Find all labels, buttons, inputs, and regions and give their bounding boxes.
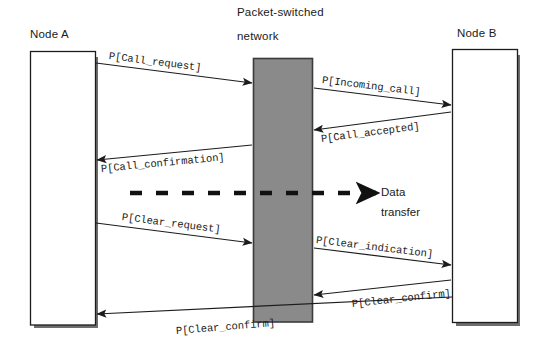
network-title-line2: network	[237, 30, 279, 42]
node-b-box	[453, 50, 518, 323]
network-title-line1: Packet-switched	[237, 6, 324, 18]
node-b-title: Node B	[457, 27, 497, 39]
sequence-diagram: Node A Node B Packet-switched network Da…	[0, 0, 545, 352]
node-a-title: Node A	[30, 28, 69, 40]
packet-switched-network-bar	[254, 59, 313, 323]
diagram-graphics	[0, 0, 545, 352]
data-transfer-label-line1: Data	[381, 186, 405, 198]
data-transfer-label-line2: transfer	[381, 206, 420, 218]
node-a-box	[31, 52, 96, 326]
